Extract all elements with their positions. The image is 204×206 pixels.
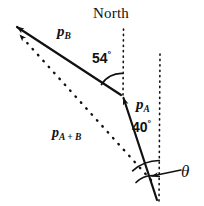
resultant-vector-label: pA + B <box>52 126 81 140</box>
theta-leader-line <box>152 170 181 176</box>
angle-theta-label: θ <box>181 163 189 180</box>
angle-arc-theta <box>136 176 159 183</box>
angle-54-degree-sign: ° <box>108 49 112 59</box>
vector-pb-label: pB <box>57 24 71 39</box>
vector-pa-line <box>124 98 158 200</box>
resultant-subscript: A + B <box>59 132 81 142</box>
angle-arc-54 <box>102 73 123 84</box>
angle-54-label: 54° <box>92 50 111 65</box>
north-reference-line-upper <box>123 29 124 97</box>
resultant-symbol: p <box>52 125 59 140</box>
vector-pa-subscript: A <box>144 104 150 114</box>
north-reference-line-lower <box>159 54 160 203</box>
angle-54-value: 54 <box>92 50 108 66</box>
resultant-vector-line <box>20 35 151 180</box>
diagram-canvas <box>0 0 204 206</box>
angle-40-value: 40 <box>132 119 148 135</box>
vector-pa-label: pA <box>136 97 150 112</box>
vector-diagram-figure: North pB pA pA + B 54° 40° θ <box>0 0 204 206</box>
angle-40-degree-sign: ° <box>148 118 152 128</box>
vector-pb-symbol: p <box>57 23 65 39</box>
angle-40-label: 40° <box>132 119 151 134</box>
vector-pa-symbol: p <box>136 96 144 112</box>
north-label: North <box>93 6 129 21</box>
vector-pb-subscript: B <box>65 31 71 41</box>
